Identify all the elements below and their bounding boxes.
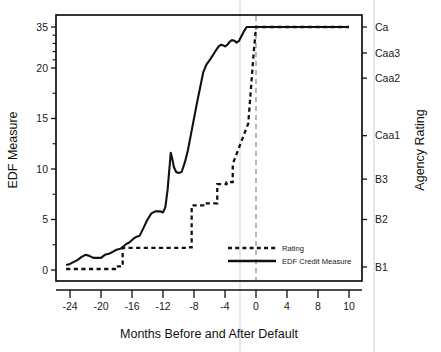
y-ticklabel-left: 5 <box>42 213 48 225</box>
legend-label-rating: Rating <box>282 244 304 253</box>
x-ticklabel: 4 <box>284 300 290 312</box>
chart-figure: 0510152035 B1B2B3Caa1Caa2Caa3Ca -24-20-1… <box>0 0 441 352</box>
edf-vs-agency-rating-chart: 0510152035 B1B2B3Caa1Caa2Caa3Ca -24-20-1… <box>0 0 441 352</box>
y-ticklabel-right: B2 <box>375 213 388 225</box>
y-ticklabel-left: 10 <box>36 163 48 175</box>
y-ticklabel-right: Ca <box>375 21 389 33</box>
x-ticklabel: -8 <box>189 300 198 312</box>
y-ticklabel-left: 0 <box>42 264 48 276</box>
x-ticklabel: 8 <box>315 300 321 312</box>
x-axis-title: Months Before and After Default <box>120 327 298 341</box>
x-ticklabel: -4 <box>220 300 229 312</box>
x-ticklabel: -12 <box>155 300 170 312</box>
y-ticklabel-right: B1 <box>375 261 388 273</box>
y-ticklabel-right: Caa2 <box>375 72 400 84</box>
x-ticklabel: -16 <box>124 300 139 312</box>
y-axis-right-title: Agency Rating <box>413 109 427 190</box>
y-ticklabel-left: 15 <box>36 112 48 124</box>
y-ticklabel-left: 20 <box>36 62 48 74</box>
x-ticklabel: -20 <box>93 300 108 312</box>
y-ticklabel-right: Caa3 <box>375 47 400 59</box>
y-ticklabel-right: B3 <box>375 173 388 185</box>
x-ticklabel: -24 <box>62 300 77 312</box>
x-ticklabel: 10 <box>343 300 355 312</box>
legend-label-edf-credit-measure: EDF Credit Measure <box>282 257 351 266</box>
x-ticklabel: 0 <box>253 300 259 312</box>
y-ticklabel-right: Caa1 <box>375 129 400 141</box>
y-axis-left-title: EDF Measure <box>6 111 20 188</box>
y-ticklabel-left: 35 <box>36 21 48 33</box>
